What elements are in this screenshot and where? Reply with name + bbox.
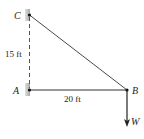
joint-b <box>125 88 128 91</box>
label-c: C <box>14 10 21 21</box>
dimension-label-horizontal: 20 ft <box>64 94 81 104</box>
joint-c <box>28 13 31 16</box>
label-b: B <box>132 85 138 96</box>
truss-diagram: C A B W 15 ft 20 ft <box>0 0 144 139</box>
label-w: W <box>131 116 141 127</box>
label-a: A <box>12 85 20 96</box>
dimension-label-vertical: 15 ft <box>5 49 22 59</box>
cable-cb <box>30 15 128 90</box>
joint-a <box>28 88 31 91</box>
